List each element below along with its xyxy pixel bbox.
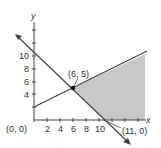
y-tick-4: 4 xyxy=(24,90,29,100)
y-tick-8: 8 xyxy=(24,64,29,74)
y-axis-label: y xyxy=(30,11,36,21)
x-tick-2: 2 xyxy=(45,124,50,134)
intersection-leader xyxy=(74,78,78,86)
shaded-region xyxy=(73,54,145,120)
x-tick-4: 4 xyxy=(58,124,63,134)
y-tick-10: 10 xyxy=(19,51,29,61)
x-intercept-label: (11, 0) xyxy=(122,126,147,136)
intersection-label: (6, 5) xyxy=(68,69,89,79)
intersection-point xyxy=(71,86,75,90)
y-tick-6: 6 xyxy=(24,77,29,87)
x-tick-10: 10 xyxy=(95,124,105,134)
x-tick-6: 6 xyxy=(71,124,76,134)
x-intercept-leader xyxy=(106,121,121,128)
x-tick-8: 8 xyxy=(84,124,89,134)
x-axis-label: x xyxy=(145,115,151,125)
chart-canvas: y x 10 8 6 4 2 4 6 8 10 (0, 0) (6, 5) (1… xyxy=(0,0,161,148)
origin-label: (0, 0) xyxy=(6,124,27,134)
